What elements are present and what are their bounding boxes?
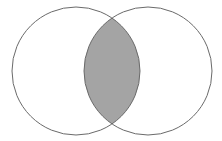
venn-diagram (0, 0, 222, 141)
intersection-region (84, 7, 212, 135)
